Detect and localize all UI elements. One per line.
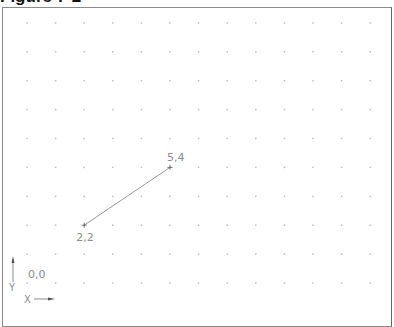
- grid-dot: [341, 138, 343, 140]
- grid-dot: [255, 109, 256, 111]
- grid-dot: [112, 138, 114, 140]
- grid-dot: [198, 51, 200, 53]
- grid-dot: [26, 224, 28, 226]
- grid-dot: [26, 80, 28, 82]
- grid-dot: [169, 80, 171, 82]
- grid-dot: [169, 224, 171, 226]
- grid-dot: [55, 51, 57, 53]
- grid-dot: [226, 196, 228, 198]
- grid-dot: [226, 282, 228, 284]
- grid-dot: [312, 253, 314, 255]
- grid-dot: [26, 253, 28, 255]
- grid-dot: [55, 282, 57, 284]
- grid-dot: [255, 282, 256, 284]
- grid-dot: [312, 80, 314, 82]
- grid-dot: [369, 22, 371, 24]
- grid-dot: [198, 224, 200, 226]
- grid-dot: [369, 282, 371, 284]
- grid-dot: [141, 167, 143, 169]
- grid-dot: [26, 138, 28, 140]
- grid-dot: [83, 80, 85, 82]
- grid-dot: [141, 109, 143, 111]
- grid-dot: [284, 196, 286, 198]
- grid-dot: [255, 253, 256, 255]
- grid-dot: [255, 196, 256, 198]
- grid-dot: [341, 167, 343, 169]
- grid-dot: [141, 22, 143, 24]
- grid-dot: [226, 224, 228, 226]
- grid-dot: [112, 224, 114, 226]
- grid-dot: [369, 224, 371, 226]
- grid-dot: [226, 22, 228, 24]
- drawn-line[interactable]: [84, 167, 170, 225]
- grid-dot: [255, 224, 256, 226]
- grid-dot: [83, 196, 85, 198]
- grid-dot: [341, 224, 343, 226]
- grid-dot: [55, 138, 57, 140]
- grid-dot: [369, 196, 371, 198]
- end-point-label: 5,4: [167, 151, 185, 164]
- grid-dot: [312, 196, 314, 198]
- grid-dot: [284, 80, 286, 82]
- grid-dot: [141, 253, 143, 255]
- grid-dot: [83, 22, 85, 24]
- x-axis-arrowhead-icon: [48, 298, 55, 301]
- grid-dot: [226, 253, 228, 255]
- grid-dot: [284, 109, 286, 111]
- grid-dot: [169, 138, 171, 140]
- y-axis-label: Y: [8, 282, 16, 293]
- grid-dot: [312, 109, 314, 111]
- grid-dot: [369, 167, 371, 169]
- grid-dot: [55, 109, 57, 111]
- grid-dot: [198, 80, 200, 82]
- grid-dot: [255, 80, 256, 82]
- grid-dot: [312, 282, 314, 284]
- grid-dot: [55, 80, 57, 82]
- grid-dot: [83, 138, 85, 140]
- grid-dot: [141, 80, 143, 82]
- grid-dot: [284, 138, 286, 140]
- grid-dot: [26, 51, 28, 53]
- grid-dot: [169, 282, 171, 284]
- grid-dot: [26, 109, 28, 111]
- grid-dot: [312, 22, 314, 24]
- origin-label: 0,0: [28, 268, 46, 281]
- grid-dot: [141, 282, 143, 284]
- grid-dot: [341, 282, 343, 284]
- grid-dot: [112, 22, 114, 24]
- grid-dot: [226, 109, 228, 111]
- grid-dot: [312, 138, 314, 140]
- grid-dot: [26, 167, 28, 169]
- grid-dot: [198, 253, 200, 255]
- grid-dot: [112, 196, 114, 198]
- grid-dot: [369, 138, 371, 140]
- y-axis-arrowhead-icon: [12, 256, 15, 263]
- grid-dot: [55, 196, 57, 198]
- grid-dot: [341, 109, 343, 111]
- grid-dot: [312, 167, 314, 169]
- grid-dot: [112, 109, 114, 111]
- grid-dot: [169, 196, 171, 198]
- grid-dot: [255, 22, 256, 24]
- grid-dot: [141, 51, 143, 53]
- grid-dot: [198, 109, 200, 111]
- grid-dot: [369, 109, 371, 111]
- grid-dot: [226, 138, 228, 140]
- grid-dot: [341, 196, 343, 198]
- grid-dot: [83, 167, 85, 169]
- grid-dot: [369, 51, 371, 53]
- grid-dot: [112, 80, 114, 82]
- grid-dot: [226, 51, 228, 53]
- grid-dot: [55, 22, 57, 24]
- grid-dot: [26, 196, 28, 198]
- grid-dot: [198, 138, 200, 140]
- grid-dot: [83, 109, 85, 111]
- grid-dot: [255, 138, 256, 140]
- grid-dot: [284, 282, 286, 284]
- grid-dot: [284, 22, 286, 24]
- grid-dots: [26, 22, 371, 284]
- grid-dot: [169, 109, 171, 111]
- grid-dot: [83, 253, 85, 255]
- grid-dot: [198, 167, 200, 169]
